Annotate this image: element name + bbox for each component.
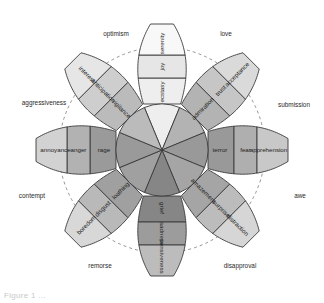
dyad-label-awe: awe [294,192,306,199]
dyad-label-submission: submission [278,101,310,108]
emotion-label-terror: terror [213,146,228,153]
dyad-label-optimism: optimism [103,30,129,38]
emotion-wheel-svg: ecstasyjoyserenityadmirationtrustaccepta… [0,0,324,303]
emotion-label-pensiveness: pensiveness [159,239,166,273]
emotion-label-ecstasy: ecstasy [158,81,165,103]
dyad-label-disapproval: disapproval [224,262,257,270]
emotion-label-rage: rage [98,146,111,153]
emotion-label-annoyance: annoyance [40,146,71,153]
emotion-label-serenity: serenity [158,32,165,55]
dyad-label-love: love [220,30,232,37]
plutchik-wheel-figure: ecstasyjoyserenityadmirationtrustaccepta… [0,0,324,303]
dyad-label-remorse: remorse [88,262,112,269]
caption-text: Figure 1 ... [4,292,46,300]
emotion-label-joy: joy [158,62,165,72]
cut-off-caption: Figure 1 ... [0,292,324,303]
dyad-label-contempt: contempt [19,192,46,200]
emotion-label-anger: anger [71,146,87,153]
emotion-label-apprehension: apprehension [250,146,288,153]
dyad-label-aggressiveness: aggressiveness [22,99,66,107]
emotion-label-grief: grief [159,202,166,214]
